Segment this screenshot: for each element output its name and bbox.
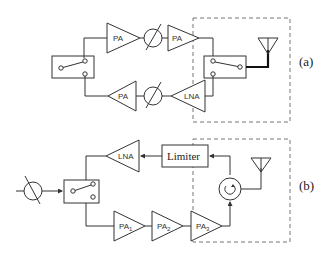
power-amplifier-b-1: PA1 <box>114 211 145 241</box>
power-amplifier-a-tx1: PA <box>107 23 140 53</box>
switch-left-a <box>52 56 94 78</box>
tr-module-diagram: PA PA PA <box>0 0 330 259</box>
switch-b <box>64 180 99 203</box>
antenna-icon <box>258 38 278 54</box>
low-noise-amplifier-b: LNA <box>106 140 139 172</box>
power-amplifier-b-2: PA2 <box>152 211 183 241</box>
wire <box>210 156 230 175</box>
wire <box>86 203 114 226</box>
wire <box>205 76 213 96</box>
amp-label: PA <box>113 34 124 43</box>
power-amplifier-b-3: PA3 <box>191 211 222 241</box>
phase-shifter-icon <box>24 176 42 204</box>
power-amplifier-a-tx2: PA <box>168 25 199 51</box>
circulator-icon <box>219 178 241 200</box>
limiter-label: Limiter <box>167 150 200 162</box>
wire <box>222 202 230 226</box>
wire <box>241 168 261 189</box>
diagram-a: PA PA PA <box>52 18 313 122</box>
low-noise-amplifier-a: LNA <box>171 80 205 112</box>
phase-shifter-icon <box>144 82 162 108</box>
limiter-block: Limiter <box>162 145 208 167</box>
power-amplifier-a-rx1: PA <box>108 81 136 111</box>
antenna-icon <box>251 158 271 172</box>
amp-label: PA <box>118 92 129 101</box>
wire <box>199 38 213 56</box>
diagram-b: LNA Limiter PA1 PA2 <box>16 139 314 242</box>
wire <box>85 76 108 96</box>
amp-label: LNA <box>184 92 200 101</box>
caption-b: (b) <box>299 178 314 193</box>
amp-label: LNA <box>118 152 134 161</box>
amp-label: PA <box>172 34 183 43</box>
wire <box>86 156 106 180</box>
caption-a: (a) <box>299 54 313 69</box>
antenna-feed <box>246 50 268 67</box>
phase-shifter-icon <box>144 24 162 50</box>
wire <box>84 38 107 58</box>
switch-right-a <box>204 56 246 78</box>
